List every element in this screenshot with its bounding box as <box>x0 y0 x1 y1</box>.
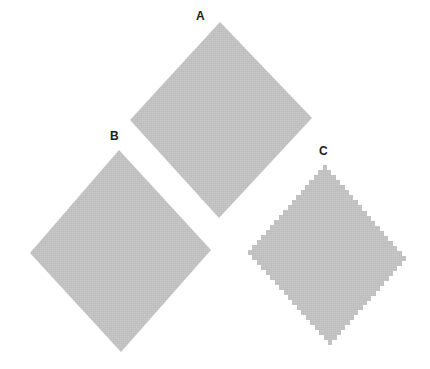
figure-canvas: A B C <box>0 0 430 369</box>
diamond-c-label: C <box>319 145 328 157</box>
shapes-svg <box>0 0 430 369</box>
diamond-a-label: A <box>196 10 205 22</box>
diamond-b-label: B <box>110 130 119 142</box>
